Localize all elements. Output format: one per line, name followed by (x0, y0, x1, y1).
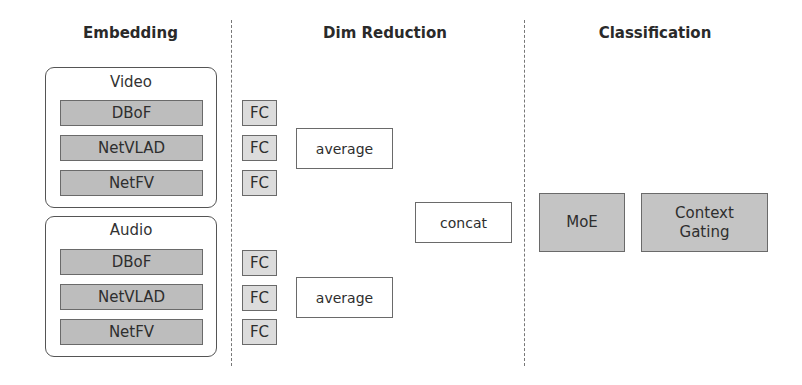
audio-netfv-block: NetFV (60, 319, 203, 345)
fc-block-video-netfv: FC (242, 170, 277, 196)
audio-dbof-block: DBoF (60, 249, 203, 275)
video-netfv-block: NetFV (60, 170, 203, 196)
audio-group-title: Audio (45, 221, 217, 239)
header-dim-reduction: Dim Reduction (290, 24, 480, 42)
fc-block-video-netvlad: FC (242, 135, 277, 161)
average-block-video: average (296, 128, 393, 169)
audio-netvlad-block: NetVLAD (60, 284, 203, 310)
moe-block: MoE (539, 193, 625, 252)
fc-block-audio-netfv: FC (242, 319, 277, 345)
video-group-title: Video (45, 73, 217, 91)
context-gating-line1: Context (675, 204, 734, 223)
average-block-audio: average (296, 277, 393, 318)
video-netvlad-block: NetVLAD (60, 135, 203, 161)
context-gating-line2: Gating (680, 223, 730, 242)
header-classification: Classification (560, 24, 750, 42)
video-dbof-block: DBoF (60, 100, 203, 126)
section-divider-2 (524, 20, 525, 366)
header-embedding: Embedding (45, 24, 216, 42)
section-divider-1 (231, 20, 232, 366)
fc-block-audio-dbof: FC (242, 250, 277, 276)
fc-block-video-dbof: FC (242, 100, 277, 126)
fc-block-audio-netvlad: FC (242, 285, 277, 311)
context-gating-block: Context Gating (641, 193, 768, 252)
concat-block: concat (415, 202, 512, 243)
